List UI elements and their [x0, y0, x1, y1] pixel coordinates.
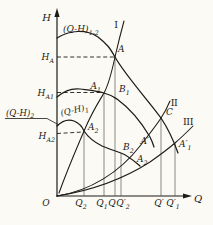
origin-label: O: [42, 198, 50, 208]
tick-q1: Q1: [96, 198, 107, 210]
head-label-ha: HA: [41, 52, 55, 64]
tick-q: Q: [108, 198, 116, 208]
pump-curves-figure: H Q O (Q-H)1-2 (Q-H)1 (Q-H)2 I II III HA…: [0, 0, 213, 225]
point-label-a1: A1: [89, 81, 101, 93]
pipeline-label-1: I: [114, 19, 118, 30]
dashed-line-ha2: [57, 132, 83, 134]
point-label-a-prime: A′: [139, 136, 149, 146]
head-label-ha1: HA1: [37, 88, 54, 100]
tick-q2: Q2: [75, 198, 86, 210]
curve-label-combined: (Q-H)1-2: [63, 24, 99, 36]
y-axis-arrow-icon: [54, 8, 59, 17]
point-label-b2: B2: [122, 142, 134, 154]
pipeline-label-3: III: [183, 116, 194, 127]
figure-canvas: H Q O (Q-H)1-2 (Q-H)1 (Q-H)2 I II III HA…: [0, 0, 213, 225]
point-label-a2-second: A2: [136, 154, 148, 166]
x-axis-arrow-icon: [183, 193, 192, 198]
pipeline-curve-3: [57, 126, 193, 196]
curve-label-pump2: (Q-H)2: [6, 108, 34, 119]
point-label-a2: A2: [87, 122, 99, 134]
point-label-b1: B1: [118, 84, 130, 96]
tick-qp1: Q′1: [166, 198, 179, 210]
point-label-c: C: [166, 107, 173, 117]
tick-qp: Q′: [154, 198, 163, 208]
tick-qp2: Q′2: [116, 198, 129, 210]
head-label-ha2: HA2: [38, 131, 55, 143]
x-axis-label: Q: [194, 193, 202, 204]
point-label-a-prime-1: A′1: [178, 139, 192, 151]
point-label-a: A: [117, 44, 125, 54]
curve-label-pump1: (Q-H)1: [60, 102, 90, 119]
pipeline-curve-2: [57, 101, 170, 196]
curve-qh-pump1: [57, 89, 154, 147]
y-axis-label: H: [41, 12, 51, 23]
